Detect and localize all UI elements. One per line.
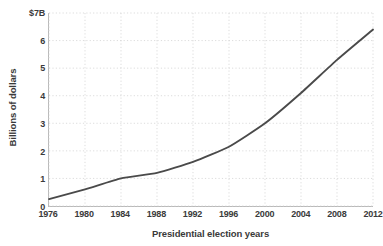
x-axis-tick-labels: 1976198019841988199219962000200420082012 [48,209,373,225]
x-tick-label: 1976 [38,209,57,219]
x-axis-title: Presidential election years [48,228,373,239]
y-axis-tick-labels: 0123456$7B [20,0,48,215]
x-tick-label: 1980 [74,209,93,219]
x-tick-label: 2008 [327,209,346,219]
y-axis-title-label: Billions of dollars [8,69,19,147]
y-tick-label: 6 [40,36,45,46]
y-tick-label: 4 [40,91,45,101]
plot-area [48,13,373,207]
y-tick-label: $7B [29,8,45,18]
series-line-campaign-spending [49,30,373,200]
series-layer [49,13,373,206]
y-tick-label: 1 [40,174,45,184]
x-tick-label: 2000 [255,209,274,219]
y-tick-label: 5 [40,63,45,73]
x-tick-label: 1996 [219,209,238,219]
x-tick-label: 1988 [147,209,166,219]
y-tick-label: 2 [40,147,45,157]
x-tick-label: 2012 [363,209,382,219]
x-tick-label: 2004 [291,209,310,219]
y-tick-label: 3 [40,119,45,129]
x-tick-label: 1992 [183,209,202,219]
x-tick-label: 1984 [111,209,130,219]
